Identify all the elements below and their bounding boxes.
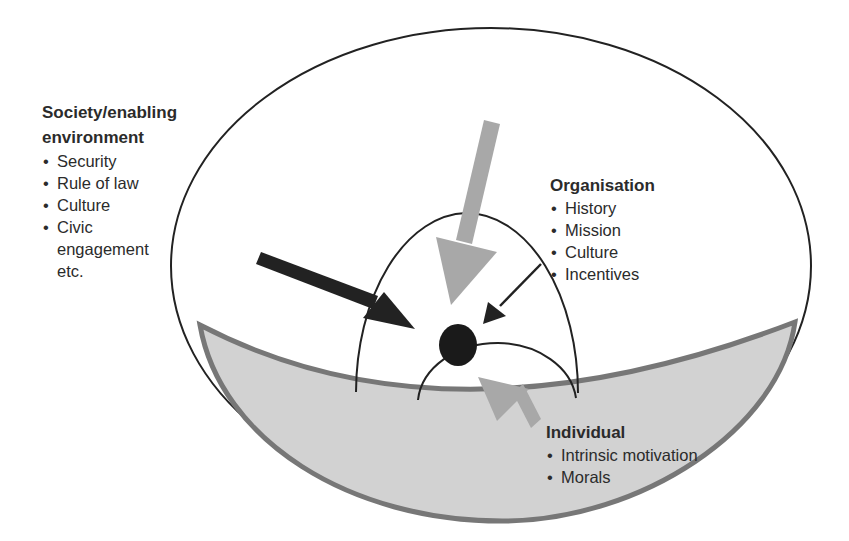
organisation-label: Organisation History Mission Culture Inc… <box>550 175 655 285</box>
society-item: Security <box>42 150 217 172</box>
society-heading-line1: Society/enabling <box>42 100 217 125</box>
individual-list: Intrinsic motivation Morals <box>546 444 698 488</box>
individual-heading: Individual <box>546 422 698 444</box>
individual-item: Intrinsic motivation <box>546 444 698 466</box>
society-item: Culture <box>42 194 217 216</box>
individual-label: Individual Intrinsic motivation Morals <box>546 422 698 488</box>
society-list: Security Rule of law Culture Civic engag… <box>42 150 217 282</box>
individual-item: Morals <box>546 466 698 488</box>
society-item-line: engagement <box>57 240 149 258</box>
organisation-item: Culture <box>550 241 655 263</box>
organisation-item: History <box>550 197 655 219</box>
organisation-item: Incentives <box>550 263 655 285</box>
society-item: Rule of law <box>42 172 217 194</box>
society-item-line: Civic <box>57 218 93 236</box>
society-item: Civic engagement etc. <box>42 216 177 282</box>
society-heading: Society/enabling environment <box>42 100 217 150</box>
organisation-heading: Organisation <box>550 175 655 197</box>
organisation-item: Mission <box>550 219 655 241</box>
society-heading-line2: environment <box>42 125 217 150</box>
organisation-list: History Mission Culture Incentives <box>550 197 655 285</box>
society-item-line: etc. <box>57 262 84 280</box>
center-dot <box>439 324 477 366</box>
society-label: Society/enabling environment Security Ru… <box>42 100 217 282</box>
